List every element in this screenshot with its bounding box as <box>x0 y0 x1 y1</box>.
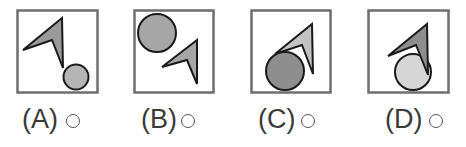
option-b-label: (B) <box>141 104 177 134</box>
option-c-panel <box>252 11 331 93</box>
option-d-label: (D) <box>385 104 422 134</box>
option-a-label: (A) <box>22 104 58 134</box>
option-d-panel <box>369 11 449 93</box>
option-d-radio[interactable] <box>429 114 443 128</box>
option-b-radio[interactable] <box>181 114 195 128</box>
option-c-circle-shape <box>266 52 304 90</box>
option-b-circle-shape <box>138 14 176 52</box>
option-c-radio[interactable] <box>301 114 315 128</box>
option-b-panel <box>135 11 214 93</box>
option-a-panel <box>18 11 98 93</box>
option-a-circle-shape <box>64 65 89 90</box>
option-c-label: (C) <box>258 104 295 134</box>
option-a-radio[interactable] <box>66 114 80 128</box>
